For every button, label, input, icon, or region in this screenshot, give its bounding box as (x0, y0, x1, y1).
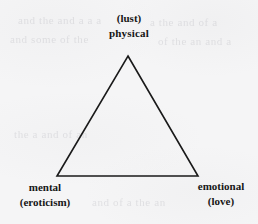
vertex-label-bottom-left-primary: mental (3, 180, 87, 195)
vertex-label-top-secondary: (lust) (0, 11, 258, 26)
vertex-label-bottom-left-secondary: (eroticism) (3, 195, 87, 210)
vertex-label-bottom-right: emotional (love) (186, 179, 256, 209)
triangle-diagram-figure: and the and a a a and some of the a the … (0, 0, 258, 224)
vertex-label-top-primary: physical (0, 26, 258, 41)
triangle-polygon (57, 56, 198, 176)
vertex-label-bottom-left: mental (eroticism) (3, 180, 87, 210)
vertex-label-bottom-right-primary: emotional (186, 179, 256, 194)
vertex-label-bottom-right-secondary: (love) (186, 194, 256, 209)
vertex-label-top: (lust) physical (0, 11, 258, 41)
